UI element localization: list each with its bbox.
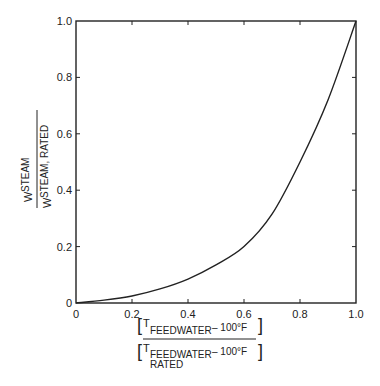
- y-ticks: 00.20.40.60.81.0: [57, 15, 356, 309]
- x-den-main: T: [143, 342, 150, 354]
- y-tick-label: 0.8: [57, 71, 72, 83]
- x-den-rest: – 100°F: [212, 346, 247, 357]
- x-label-denominator: [ T FEEDWATER RATED – 100°F ]: [137, 341, 263, 370]
- x-axis-label: [ T FEEDWATER – 100°F ] [ T FEEDWATER RA…: [137, 315, 263, 370]
- y-axis-label: W STEAM W STEAM, RATED: [20, 110, 53, 208]
- x-tick-label: 1.0: [348, 308, 363, 320]
- x-num-rest: – 100°F: [212, 322, 247, 333]
- y-tick-label: 0.2: [57, 241, 72, 253]
- left-bracket: [: [137, 315, 142, 335]
- chart: 00.20.40.60.81.0 00.20.40.60.81.0 [ T FE…: [0, 0, 380, 386]
- y-tick-label: 1.0: [57, 15, 72, 27]
- x-tick-label: 0.6: [236, 308, 251, 320]
- x-tick-label: 0: [73, 308, 79, 320]
- x-tick-label: 0.8: [292, 308, 307, 320]
- series-line: [76, 21, 356, 303]
- right-bracket: ]: [258, 315, 263, 335]
- x-tick-label: 0.4: [180, 308, 195, 320]
- x-ticks: 00.20.40.60.81.0: [73, 21, 364, 320]
- y-den-sub: STEAM, RATED: [39, 125, 50, 198]
- x-den-sub2: RATED: [150, 359, 183, 370]
- y-tick-label: 0.6: [57, 128, 72, 140]
- x-num-sub: FEEDWATER: [150, 325, 212, 336]
- x-num-main: T: [143, 317, 150, 329]
- plot-frame: [76, 21, 356, 303]
- y-tick-label: 0.4: [57, 184, 72, 196]
- left-bracket: [: [137, 341, 142, 361]
- y-num-sub: STEAM: [20, 158, 31, 192]
- y-tick-label: 0: [66, 297, 72, 309]
- right-bracket: ]: [258, 341, 263, 361]
